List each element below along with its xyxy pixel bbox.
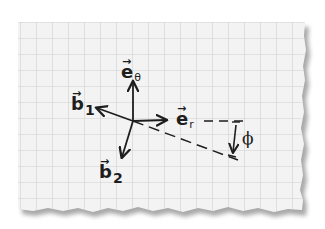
vector-hat-icon: →	[177, 103, 186, 114]
b1-label: →b1	[71, 95, 95, 117]
diagram-canvas: →eθ →b1 →er →b2 ϕ	[0, 0, 325, 229]
graph-paper-sketch	[0, 0, 325, 229]
vector-hat-icon: →	[100, 156, 109, 167]
b2-label: →b2	[99, 163, 123, 185]
phi-angle-label: ϕ	[242, 130, 254, 147]
e-r-label: →er	[176, 110, 194, 130]
e-theta-label: →eθ	[121, 63, 141, 83]
vector-hat-icon: →	[122, 56, 131, 67]
vector-hat-icon: →	[72, 88, 81, 99]
e-r-arrow	[133, 120, 166, 121]
grid-lines	[0, 0, 325, 229]
